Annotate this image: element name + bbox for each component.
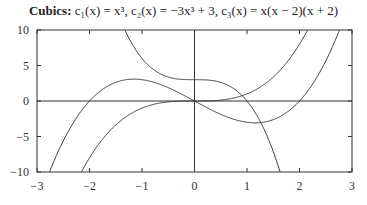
y-tick-label: −5 — [16, 130, 29, 144]
y-tick-label: 10 — [17, 23, 29, 37]
y-tick-label: 0 — [23, 94, 29, 108]
x-tick-label: 2 — [297, 179, 303, 193]
x-tick-label: 1 — [244, 179, 250, 193]
x-tick-label: 3 — [349, 179, 355, 193]
plot-area: −3−2−10123−10−50510 — [0, 0, 367, 205]
x-tick-label: −2 — [83, 179, 96, 193]
y-tick-label: −10 — [10, 165, 29, 179]
y-tick-label: 5 — [23, 59, 29, 73]
x-tick-label: −3 — [31, 179, 44, 193]
x-tick-label: −1 — [136, 179, 149, 193]
x-tick-label: 0 — [192, 179, 198, 193]
